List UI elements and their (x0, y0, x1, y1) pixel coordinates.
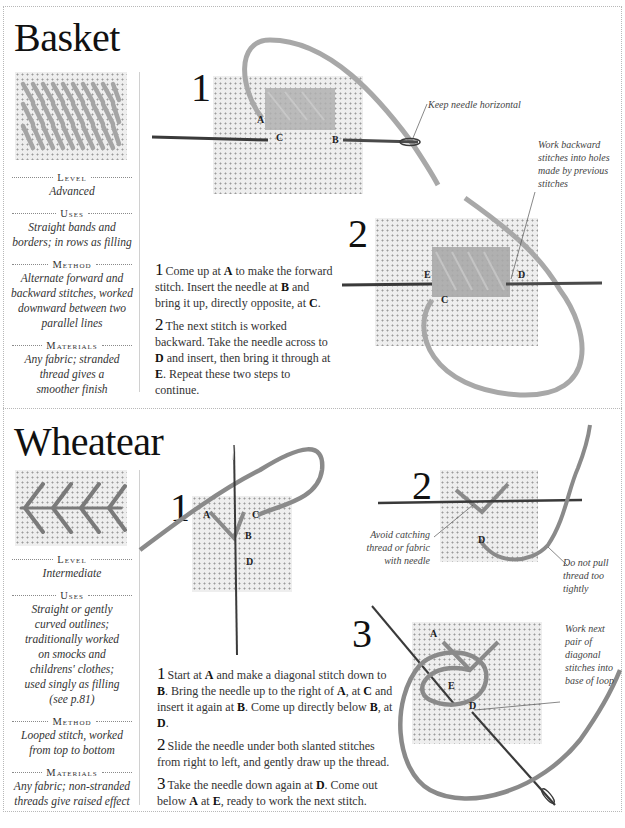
basket-diagram2-canvas (375, 218, 538, 346)
basket-uses-block: Uses Straight bands and borders; in rows… (8, 206, 136, 250)
materials-heading: Materials (46, 767, 97, 778)
wheatear-sample-swatch (15, 470, 127, 546)
work-next-pair-callout: Work next pair of diagonal stitches into… (565, 622, 615, 687)
point-d-label: D (478, 534, 485, 545)
basket-materials-block: Materials Any fabric; stranded thread gi… (8, 338, 136, 397)
uses-value: Straight bands and borders; in rows as f… (8, 220, 136, 250)
point-a-label: A (203, 509, 210, 520)
wheatear-info-sidebar: Level Intermediate Uses Straight or gent… (8, 552, 136, 816)
basket-instructions: 1Come up at A to make the forward stitch… (155, 262, 335, 404)
wheatear-diagram2-canvas (440, 470, 538, 562)
basket-stitch-sample-image (15, 72, 127, 160)
materials-value: Any fabric; stranded thread gives a smoo… (8, 352, 136, 397)
wheatear-instructions: 1Start at A and make a diagonal stitch d… (157, 666, 397, 815)
wheatear-diagram1-step-number: 1 (170, 488, 190, 528)
wheatear-materials-block: Materials Any fabric; non-stranded threa… (8, 765, 136, 809)
point-c-label: C (441, 294, 448, 305)
basket-info-sidebar: Level Advanced Uses Straight bands and b… (8, 170, 136, 404)
level-heading: Level (57, 554, 86, 565)
point-a-label: A (257, 114, 264, 125)
point-b-label: B (332, 134, 339, 145)
wheatear-stitch-sample-image (15, 470, 127, 546)
work-backward-stitches-callout: Work backward stitches into holes made b… (538, 138, 620, 190)
uses-heading: Uses (60, 590, 84, 601)
basket-diagram2-step-number: 2 (348, 214, 368, 254)
uses-heading: Uses (60, 208, 84, 219)
basket-sample-swatch (15, 72, 127, 160)
wheatear-title: Wheatear (14, 418, 163, 465)
materials-value: Any fabric; non-stranded threads give ra… (8, 779, 136, 809)
keep-needle-horizontal-callout: Keep needle horizontal (428, 98, 568, 111)
wheatear-method-block: Method Looped stitch, worked from top to… (8, 714, 136, 758)
wheatear-level-block: Level Intermediate (8, 552, 136, 581)
basket-title: Basket (14, 14, 120, 61)
point-a-label: A (430, 628, 437, 639)
basket-diagram1-canvas (213, 76, 363, 194)
basket-level-block: Level Advanced (8, 170, 136, 199)
wheatear-diagram3-canvas (412, 622, 542, 744)
uses-value: Straight or gently curved outlines; trad… (8, 602, 136, 707)
point-d-label: D (469, 700, 476, 711)
basket-step-1: 1Come up at A to make the forward stitch… (155, 262, 335, 311)
wheatear-step-2: 2Slide the needle under both slanted sti… (157, 737, 397, 770)
point-d-label: D (246, 556, 253, 567)
basket-method-block: Method Alternate forward and backward st… (8, 257, 136, 331)
method-value: Alternate forward and backward stitches,… (8, 271, 136, 331)
wheatear-step-1: 1Start at A and make a diagonal stitch d… (157, 666, 397, 731)
wheatear-sidebar-divider (139, 470, 140, 805)
do-not-pull-thread-callout: Do not pull thread too tightly (563, 556, 618, 595)
point-d-label: D (518, 269, 525, 280)
wheatear-step-3: 3Take the needle down again at D. Come o… (157, 776, 397, 809)
basket-step-2: 2The next stitch is worked backward. Tak… (155, 317, 335, 398)
level-value: Advanced (8, 184, 136, 199)
method-value: Looped stitch, worked from top to bottom (8, 728, 136, 758)
avoid-catching-thread-callout: Avoid catching thread or fabric with nee… (360, 528, 430, 567)
wheatear-uses-block: Uses Straight or gently curved outlines;… (8, 588, 136, 707)
method-heading: Method (52, 716, 91, 727)
wheatear-diagram2-step-number: 2 (412, 466, 432, 506)
basket-sidebar-divider (139, 72, 140, 392)
wheatear-diagram3-step-number: 3 (352, 614, 372, 654)
basket-diagram1-step-number: 1 (191, 68, 211, 108)
point-b-label: B (245, 530, 252, 541)
point-c-label: C (252, 509, 259, 520)
point-e-label: E (448, 680, 455, 691)
level-heading: Level (57, 172, 86, 183)
point-e-label: E (424, 269, 431, 280)
method-heading: Method (52, 259, 91, 270)
point-c-label: C (276, 132, 283, 143)
materials-heading: Materials (46, 340, 97, 351)
level-value: Intermediate (8, 566, 136, 581)
